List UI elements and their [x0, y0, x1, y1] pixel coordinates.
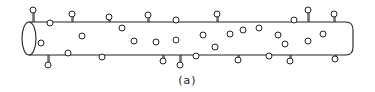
interior-particle-icon — [240, 27, 246, 33]
tube-left-end-ellipse — [22, 22, 36, 55]
surface-particle-icon — [145, 12, 151, 22]
surface-particle-icon — [235, 55, 241, 63]
figure-caption: (a) — [0, 74, 375, 87]
interior-particles — [38, 25, 326, 50]
interior-particle-icon — [227, 31, 233, 37]
surface-particle-icon — [106, 14, 112, 22]
surface-particle-icon — [47, 20, 53, 26]
surface-particle-icon — [193, 53, 199, 59]
interior-particle-icon — [131, 38, 137, 44]
tube-body — [29, 22, 353, 55]
surface-particle-icon — [177, 55, 183, 68]
tube-outline — [22, 22, 353, 55]
interior-particle-icon — [212, 44, 218, 50]
surface-particle-icon — [65, 50, 71, 56]
interior-particle-icon — [79, 33, 85, 39]
interior-particle-icon — [173, 37, 179, 43]
interior-particle-icon — [305, 38, 311, 44]
interior-particle-icon — [256, 25, 262, 31]
interior-particle-icon — [282, 41, 288, 47]
surface-particle-icon — [45, 55, 51, 68]
surface-particle-icon — [160, 55, 166, 64]
surface-particle-icon — [173, 17, 179, 23]
bottom-surface-particles — [45, 50, 338, 68]
surface-particle-icon — [291, 17, 297, 23]
surface-particle-icon — [305, 7, 311, 22]
surface-particle-icon — [30, 7, 36, 22]
interior-particle-icon — [320, 31, 326, 37]
interior-particle-icon — [119, 25, 125, 31]
interior-particle-icon — [275, 32, 281, 38]
surface-particle-icon — [214, 11, 220, 22]
surface-particle-icon — [287, 55, 293, 64]
surface-particle-icon — [266, 53, 272, 59]
surface-particle-icon — [69, 11, 75, 22]
surface-particle-icon — [331, 11, 337, 22]
surface-particle-icon — [99, 54, 105, 60]
interior-particle-icon — [200, 32, 206, 38]
top-surface-particles — [30, 7, 337, 26]
interior-particle-icon — [38, 40, 44, 46]
surface-particle-icon — [332, 55, 338, 62]
interior-particle-icon — [153, 39, 159, 45]
